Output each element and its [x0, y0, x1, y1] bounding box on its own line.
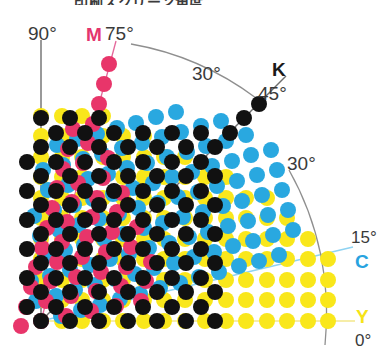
label-angle-45: 45°	[258, 84, 287, 103]
halftone-dots-layer	[0, 0, 392, 362]
halftone-angle-figure: 印刷スクリーン角度	[0, 0, 392, 362]
label-channel-y: Y	[356, 307, 369, 326]
label-angle-30-lower: 30°	[287, 154, 316, 173]
label-angle-75: 75°	[105, 24, 134, 43]
label-angle-30-upper: 30°	[192, 64, 221, 83]
label-angle-90: 90°	[28, 24, 57, 43]
label-channel-m: M	[86, 25, 102, 44]
label-channel-c: C	[355, 252, 369, 271]
label-angle-0: 0°	[355, 332, 371, 349]
label-angle-15: 15°	[351, 229, 377, 246]
label-channel-k: K	[272, 60, 286, 79]
